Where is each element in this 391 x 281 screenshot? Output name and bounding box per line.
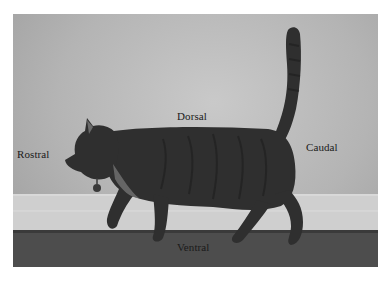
label-rostral: Rostral [17,149,49,160]
label-ventral: Ventral [177,242,209,253]
label-dorsal: Dorsal [177,111,207,122]
label-caudal: Caudal [306,142,338,153]
collar-bell [93,184,101,192]
